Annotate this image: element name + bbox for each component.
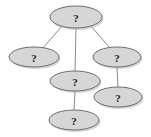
graph-node[interactable]: ?	[93, 47, 143, 69]
node-label: ?	[31, 52, 37, 64]
node-layer: ??????	[9, 6, 144, 132]
graph-edge	[117, 67, 118, 87]
graph-node[interactable]: ?	[9, 47, 61, 69]
graph-node[interactable]: ?	[50, 6, 104, 30]
graph-edge	[74, 91, 75, 110]
graph-node[interactable]: ?	[49, 110, 101, 132]
graph-edge	[91, 26, 110, 48]
node-label: ?	[115, 92, 121, 104]
graph-edge	[43, 26, 62, 48]
graph-node[interactable]: ?	[94, 87, 144, 109]
graph-diagram: ??????	[0, 0, 151, 137]
graph-node[interactable]: ?	[50, 71, 102, 93]
graph-edge	[75, 28, 76, 71]
node-label: ?	[71, 115, 77, 127]
node-label: ?	[73, 12, 79, 24]
node-label: ?	[114, 52, 120, 64]
node-label: ?	[72, 76, 78, 88]
diagram-canvas: ??????	[0, 0, 151, 137]
